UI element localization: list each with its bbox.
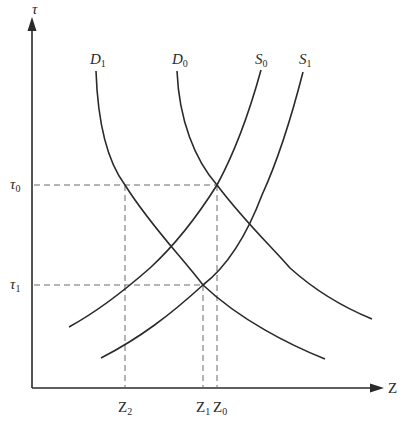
curve-label-d1-sub: 1	[101, 58, 106, 69]
x-tick-z2-name: Z	[118, 399, 127, 415]
curve-label-s0-sub: 0	[263, 58, 268, 69]
guide-lines	[34, 185, 217, 388]
curve-label-d0: D0	[172, 52, 188, 69]
y-tick-tau1: τ1	[10, 277, 20, 294]
curve-s1	[101, 72, 303, 358]
supply-demand-diagram	[0, 0, 407, 421]
curve-label-s0-name: S	[255, 51, 263, 67]
x-tick-z1-name: Z	[196, 399, 205, 415]
y-axis-label-text: τ	[32, 1, 37, 17]
y-tick-tau0-sub: 0	[15, 183, 20, 194]
x-tick-z2: Z2	[118, 400, 132, 417]
x-tick-z1-sub: 1	[205, 406, 210, 417]
curve-label-s1-name: S	[299, 51, 307, 67]
y-tick-tau0: τ0	[10, 177, 20, 194]
x-axis-label-text: Z	[388, 380, 397, 396]
curve-label-d0-sub: 0	[183, 58, 188, 69]
curve-label-d1: D1	[90, 52, 106, 69]
curve-label-d1-name: D	[90, 51, 101, 67]
y-tick-tau1-sub: 1	[15, 283, 20, 294]
curve-label-d0-name: D	[172, 51, 183, 67]
x-tick-z0: Z0	[213, 400, 227, 417]
x-tick-z0-sub: 0	[222, 406, 227, 417]
x-tick-z0-name: Z	[213, 399, 222, 415]
x-axis-label: Z	[388, 381, 397, 396]
curve-label-s1: S1	[299, 52, 312, 69]
y-axis-arrow-icon	[28, 17, 37, 31]
curve-label-s0: S0	[255, 52, 268, 69]
curve-label-s1-sub: 1	[307, 58, 312, 69]
y-axis-label: τ	[32, 2, 37, 17]
x-tick-z1: Z1	[196, 400, 210, 417]
x-tick-z2-sub: 2	[127, 406, 132, 417]
axes	[28, 17, 385, 393]
x-axis-arrow-icon	[370, 384, 384, 393]
curve-s0	[69, 70, 261, 327]
curves	[69, 70, 372, 359]
